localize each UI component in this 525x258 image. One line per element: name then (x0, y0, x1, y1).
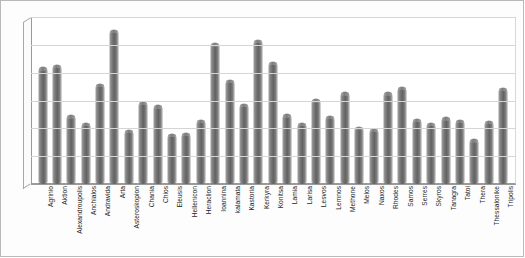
bar-chart: 020040060080010001200 AgrinioAktionAlexa… (0, 0, 525, 258)
gridline-600 (31, 101, 516, 102)
x-tick-label-anchialos: Anchialos (90, 186, 97, 215)
x-tick-label-andravida: Andravida (104, 186, 111, 216)
x-tick-label-text: Heraclion (205, 186, 212, 214)
bar-cylinder (384, 92, 392, 184)
x-tick-label-text: Tanagra (450, 186, 457, 210)
x-tick-label-arta: Arta (119, 186, 126, 198)
gridline-400 (31, 128, 516, 129)
x-tick-label-agrinio: Agrinio (47, 186, 54, 207)
x-tick-label-text: Anchialos (90, 186, 97, 215)
x-tick-label-text: Methone (349, 186, 356, 212)
bar-cylinder (154, 105, 162, 184)
x-tick-label-asteroskopion: Asteroskopion (133, 186, 140, 228)
x-tick-label-rhodes: Rhodes (392, 186, 399, 209)
x-tick-label-ioannina: Ioannina (220, 186, 227, 212)
x-tick-label-kastoria: Kastoria (248, 186, 255, 211)
x-tick-label-tatoi: Tatoi (464, 186, 471, 200)
bar-cylinder (211, 43, 219, 184)
x-tick-label-text: Andravida (104, 186, 111, 216)
gridline-1200 (31, 17, 516, 18)
x-tick-label-hellenicon: Hellenicon (191, 186, 198, 217)
bar-cylinder (456, 120, 464, 184)
x-tick-label-lesvos: Lesvos (320, 186, 327, 207)
x-tick-label-skyros: Skyros (435, 186, 442, 206)
x-tick-label-melos: Melos (363, 186, 370, 204)
x-tick-label-text: Thera (479, 186, 486, 203)
x-tick-label-text: Chania (148, 186, 155, 207)
x-tick-label-text: Serres (421, 186, 428, 206)
x-axis-labels: AgrinioAktionAlexandroupolisAnchialosAnd… (31, 186, 516, 258)
x-tick-label-lamia: Lamia (291, 186, 298, 204)
x-tick-label-text: Tatoi (464, 186, 471, 200)
x-tick-label-text: Agrinio (47, 186, 54, 207)
x-tick-label-text: Lesvos (320, 186, 327, 207)
x-tick-label-text: Naxos (378, 186, 385, 205)
bar-cylinder (427, 123, 435, 184)
x-tick-label-tripolis: Tripolis (507, 186, 514, 207)
x-tick-label-text: Melos (363, 186, 370, 204)
bar-cylinder (82, 123, 90, 184)
x-tick-label-kalamata: kalamata (234, 186, 241, 213)
bar-cylinder (39, 67, 47, 184)
bar-cylinder (269, 62, 277, 184)
x-tick-label-text: Konitsa (277, 186, 284, 208)
bar-cylinder (470, 139, 478, 184)
x-tick-label-text: Thessalonike (493, 186, 500, 225)
bar-cylinder (226, 80, 234, 184)
bar-cylinder (485, 121, 493, 184)
plot-area (31, 17, 516, 184)
gridline-1000 (31, 45, 516, 46)
bar-cylinder (197, 120, 205, 184)
x-tick-label-text: Ioannina (220, 186, 227, 212)
x-tick-label-text: Lemnos (335, 186, 342, 210)
x-tick-label-text: Kastoria (248, 186, 255, 211)
x-tick-label-text: Hellenicon (191, 186, 198, 217)
x-tick-label-alexandroupolis: Alexandroupolis (76, 186, 83, 234)
x-tick-label-text: Lamia (291, 186, 298, 204)
x-tick-label-larisa: Larisa (306, 186, 313, 204)
bar-cylinder (182, 133, 190, 184)
x-tick-label-aktion: Aktion (61, 186, 68, 205)
x-tick-label-konitsa: Konitsa (277, 186, 284, 208)
x-tick-label-text: Larisa (306, 186, 313, 204)
x-tick-label-text: Aktion (61, 186, 68, 205)
bar-cylinder (298, 123, 306, 184)
x-tick-label-text: kalamata (234, 186, 241, 213)
x-tick-label-kerkyra: Kerkyra (263, 186, 270, 209)
bar-cylinder (53, 65, 61, 184)
x-tick-label-serres: Serres (421, 186, 428, 206)
bar-cylinder (341, 92, 349, 184)
x-tick-label-eleusis: Eleusis (176, 186, 183, 208)
bar-cylinder (442, 117, 450, 184)
bar-cylinder (254, 40, 262, 184)
x-tick-label-text: Kerkyra (263, 186, 270, 209)
x-tick-label-text: Eleusis (176, 186, 183, 208)
bar-cylinder (312, 99, 320, 184)
x-tick-label-heraclion: Heraclion (205, 186, 212, 214)
bar-cylinder (326, 116, 334, 184)
x-tick-label-text: Arta (119, 186, 126, 198)
bar-cylinder (96, 84, 104, 184)
x-tick-label-text: Samos (407, 186, 414, 207)
bar-cylinder (168, 134, 176, 184)
x-tick-label-methone: Methone (349, 186, 356, 212)
x-tick-label-naxos: Naxos (378, 186, 385, 205)
x-tick-label-lemnos: Lemnos (335, 186, 342, 210)
x-tick-label-tanagra: Tanagra (450, 186, 457, 210)
bar-cylinder (110, 30, 118, 184)
bar-cylinder (499, 88, 507, 184)
bar-cylinder (283, 114, 291, 184)
bar-cylinder (67, 115, 75, 184)
x-tick-label-text: Tripolis (507, 186, 514, 207)
x-tick-label-samos: Samos (407, 186, 414, 207)
axis-left-wall (23, 22, 31, 189)
gridline-0 (31, 184, 516, 185)
gridline-200 (31, 156, 516, 157)
x-tick-label-text: Skyros (435, 186, 442, 206)
x-tick-label-text: Alexandroupolis (76, 186, 83, 234)
x-tick-label-text: Chios (162, 186, 169, 203)
x-tick-label-chania: Chania (148, 186, 155, 207)
bar-cylinder (240, 104, 248, 184)
x-tick-label-text: Rhodes (392, 186, 399, 209)
x-tick-label-text: Asteroskopion (133, 186, 140, 228)
